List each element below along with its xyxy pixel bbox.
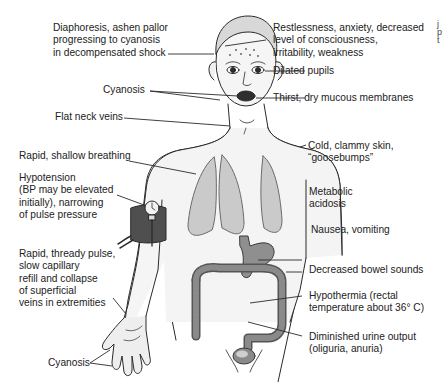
cropped-edge-text: j p t — [437, 20, 442, 44]
label-thready-pulse: Rapid, thready pulse, slow capillary ref… — [19, 248, 115, 309]
label-thirst: Thirst, dry mucous membranes — [273, 92, 413, 104]
label-cold-clammy-skin: Cold, clammy skin, “goosebumps” — [308, 140, 393, 165]
label-diaphoresis: Diaphoresis, ashen pallor progressing to… — [53, 22, 168, 59]
label-hypotension: Hypotension (BP may be elevated initiall… — [19, 172, 113, 221]
label-cyanosis-face: Cyanosis — [103, 84, 145, 96]
label-metabolic-acidosis: Metabolic acidosis — [309, 186, 353, 211]
label-flat-neck-veins: Flat neck veins — [55, 111, 123, 123]
label-cyanosis-hand: Cyanosis — [48, 357, 90, 369]
label-nausea-vomiting: Nausea, vomiting — [311, 224, 390, 236]
label-urine-output: Diminished urine output (oliguria, anuri… — [309, 331, 416, 356]
label-dilated-pupils: Dilated pupils — [273, 65, 334, 77]
shock-signs-diagram: Diaphoresis, ashen pallor progressing to… — [0, 0, 443, 382]
label-rapid-shallow-breathing: Rapid, shallow breathing — [19, 150, 131, 162]
label-decreased-bowel-sounds: Decreased bowel sounds — [309, 264, 423, 276]
label-hypothermia: Hypothermia (rectal temperature about 36… — [309, 290, 424, 315]
label-restlessness: Restlessness, anxiety, decreased level o… — [273, 22, 424, 59]
